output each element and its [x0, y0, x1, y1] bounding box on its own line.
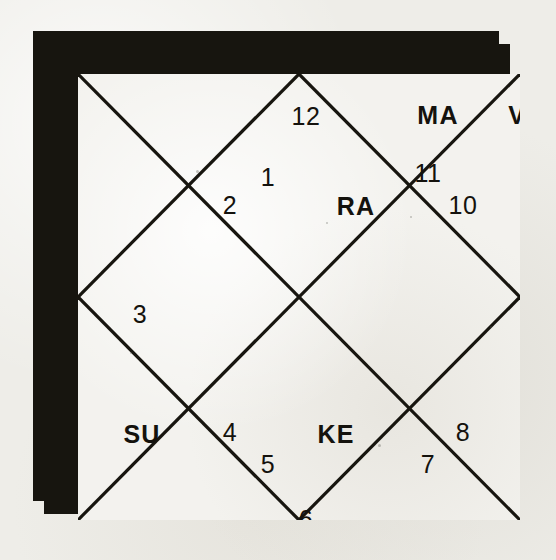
planet-saturn: SA	[508, 519, 520, 521]
planet-rahu: RA	[337, 194, 376, 219]
house-number-8: 8	[456, 420, 470, 445]
house-number-4: 4	[223, 420, 237, 445]
house-number-12: 12	[292, 104, 321, 129]
house-number-11: 11	[415, 161, 442, 186]
house-number-6: 6	[299, 507, 313, 521]
chart-inner-field: 1 2 3 4 5 6 7 8 9 10 11 12 RA MA VE MO J…	[78, 74, 520, 520]
chart-grid-lines	[78, 74, 520, 520]
house-number-2: 2	[223, 193, 237, 218]
planet-sun: SU	[123, 422, 160, 447]
vedic-birth-chart: 1 2 3 4 5 6 7 8 9 10 11 12 RA MA VE MO J…	[0, 0, 556, 560]
house-number-7: 7	[421, 452, 435, 477]
planet-mercury: ME	[418, 519, 458, 521]
house-number-3: 3	[133, 302, 147, 327]
chart-outer-frame: 1 2 3 4 5 6 7 8 9 10 11 12 RA MA VE MO J…	[33, 31, 499, 501]
planet-ketu: KE	[317, 422, 354, 447]
planet-mars: MA	[417, 103, 458, 128]
planet-venus: VE	[508, 103, 520, 128]
house-number-1: 1	[261, 165, 275, 190]
house-number-10: 10	[449, 193, 478, 218]
house-number-5: 5	[261, 452, 275, 477]
